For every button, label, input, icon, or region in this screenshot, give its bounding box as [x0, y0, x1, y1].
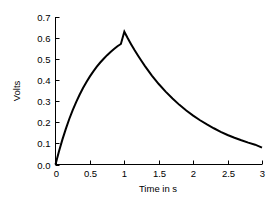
x-tick-label: 0.5	[84, 168, 97, 179]
x-tick-label: 2.5	[222, 168, 235, 179]
line-chart: 0.00.10.20.30.40.50.60.7 00.511.522.53 T…	[0, 0, 278, 206]
x-tick-label: 2	[191, 168, 196, 179]
x-axis-title: Time in s	[139, 183, 177, 194]
y-tick-label: 0.6	[37, 33, 50, 44]
y-tick-label: 0.5	[37, 54, 50, 65]
x-axis-tick-labels: 00.511.522.53	[54, 168, 265, 179]
y-axis-title: Volts	[11, 80, 22, 101]
y-tick-label: 0.7	[37, 12, 50, 23]
y-tick-label: 0.0	[37, 160, 50, 171]
chart-container: 0.00.10.20.30.40.50.60.7 00.511.522.53 T…	[0, 0, 278, 206]
x-tick-label: 1.5	[153, 168, 166, 179]
y-tick-label: 0.4	[37, 75, 50, 86]
y-tick-label: 0.2	[37, 117, 50, 128]
y-tick-label: 0.1	[37, 138, 50, 149]
y-tick-label: 0.3	[37, 96, 50, 107]
x-tick-label: 3	[260, 168, 265, 179]
x-tick-label: 0	[54, 168, 59, 179]
x-tick-label: 1	[122, 168, 127, 179]
